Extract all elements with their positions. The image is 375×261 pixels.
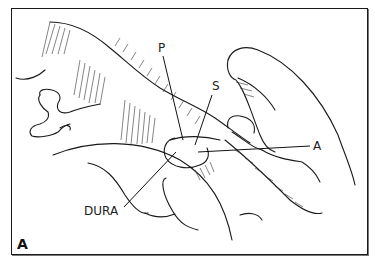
anatomical-illustration (0, 0, 375, 261)
label-dura: DURA (84, 205, 118, 217)
leader-line-p (163, 56, 183, 140)
anatomical-figure: P S A DURA A (0, 0, 375, 261)
panel-letter: A (17, 236, 28, 252)
leader-line-dura (124, 152, 176, 207)
label-a: A (313, 140, 321, 152)
label-p: P (158, 42, 165, 54)
label-s: S (212, 80, 220, 92)
